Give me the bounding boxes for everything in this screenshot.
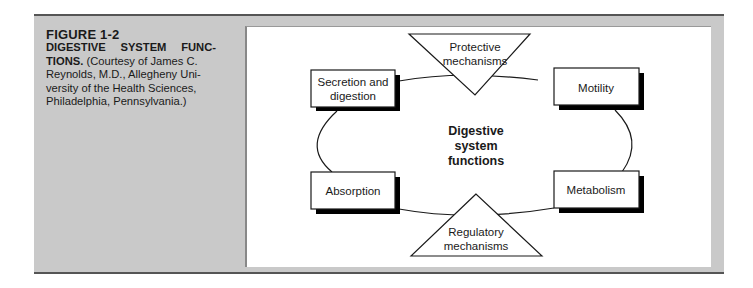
secretion-label-line1: Secretion and <box>318 76 389 88</box>
motility-box: Motility <box>554 68 644 110</box>
center-label-line3: functions <box>448 154 504 168</box>
motility-label: Motility <box>578 82 614 94</box>
protective-label-line1: Protective <box>449 41 500 53</box>
metabolism-label: Metabolism <box>567 184 626 196</box>
protective-label-line2: mechanisms <box>443 55 508 67</box>
secretion-label-line2: digestion <box>330 90 376 102</box>
protective-mechanisms-triangle: Protective mechanisms <box>409 34 530 95</box>
absorption-label: Absorption <box>326 185 381 197</box>
center-label: Digestive system functions <box>448 124 504 168</box>
center-label-line2: system <box>454 139 497 153</box>
secretion-digestion-box: Secretion and digestion <box>311 70 400 111</box>
regulatory-mechanisms-triangle: Regulatory mechanisms <box>411 194 542 256</box>
regulatory-label-line1: Regulatory <box>448 226 504 238</box>
metabolism-box: Metabolism <box>554 171 644 213</box>
digestive-functions-diagram: Protective mechanisms Regulatory mechani… <box>0 0 753 288</box>
regulatory-label-line2: mechanisms <box>444 240 509 252</box>
absorption-box: Absorption <box>311 172 400 214</box>
center-label-line1: Digestive <box>448 124 504 138</box>
